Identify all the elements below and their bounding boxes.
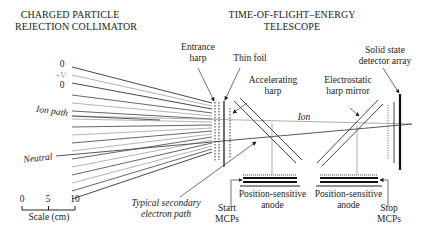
scale-tick-5: 5 <box>43 194 53 205</box>
secondary-electron-label: Typical secondary electron path <box>125 198 207 220</box>
telescope-header-line1: TIME-OF-FLIGHT–ENERGY <box>222 9 362 21</box>
telescope-header: TIME-OF-FLIGHT–ENERGY TELESCOPE <box>222 9 362 33</box>
anode-left-label-line2: anode <box>235 200 310 211</box>
solid-state-detector-label: Solid state detector array <box>350 45 420 67</box>
anode-left-label-line1: Position-sensitive <box>235 189 310 200</box>
ion-label: Ion <box>294 112 314 123</box>
stop-mcps-label-line2: MCPs <box>374 214 404 225</box>
harp-mirror-leader <box>350 108 359 116</box>
diagonal-harp-left-b <box>240 98 302 160</box>
solid-state-detector-label-line1: Solid state <box>350 45 420 56</box>
diagonal-harp-left-a <box>234 101 296 163</box>
solid-state-detector-label-line2: detector array <box>350 56 420 67</box>
scale-tick-10: 10 <box>68 194 82 205</box>
stop-mcp-assembly <box>316 175 382 186</box>
entrance-harp-label-line2: harp <box>175 53 221 64</box>
accelerating-harp-label: Accelerating harp <box>244 75 302 97</box>
detector-leader <box>383 68 399 93</box>
harp-mirror-label-line1: Electrostatic <box>317 75 379 86</box>
voltage-label-0-top: 0 <box>57 59 67 70</box>
stop-mcps-label: Stop MCPs <box>374 203 404 225</box>
scale-label: Scale (cm) <box>20 212 78 223</box>
scale-tick-0: 0 <box>17 194 27 205</box>
scale-bar <box>22 206 75 210</box>
harp-mirror-b <box>322 104 383 166</box>
collimator-header-line1: CHARGED PARTICLE <box>15 9 125 21</box>
stop-mcps-label-line1: Stop <box>374 203 404 214</box>
anode-right-label-line1: Position-sensitive <box>311 189 386 200</box>
entrance-harp-leader <box>198 68 214 101</box>
voltage-label-0-bottom: 0 <box>57 80 67 91</box>
secondary-electron-label-line2: electron path <box>125 209 207 220</box>
collimator-plates <box>72 67 212 199</box>
harp-mirror-label-line2: harp mirror <box>317 86 379 97</box>
harp-mirror-label: Electrostatic harp mirror <box>317 75 379 97</box>
start-mcp-assembly <box>240 175 300 186</box>
entrance-harp-label-line1: Entrance <box>175 42 221 53</box>
collimator-header: CHARGED PARTICLE REJECTION COLLIMATOR <box>15 9 125 33</box>
start-mcps-label-line2: MCPs <box>212 214 242 225</box>
telescope-header-line2: TELESCOPE <box>222 21 362 33</box>
accelerating-harp-label-line1: Accelerating <box>244 75 302 86</box>
thin-foil-leader <box>225 68 240 100</box>
entrance-harp-label: Entrance harp <box>175 42 221 64</box>
thin-foil-label: Thin foil <box>228 53 272 64</box>
collimator-header-line2: REJECTION COLLIMATOR <box>15 21 125 33</box>
accelerating-harp-label-line2: harp <box>244 86 302 97</box>
secondary-electron-label-line1: Typical secondary <box>125 198 207 209</box>
anode-left-label: Position-sensitive anode <box>235 189 310 211</box>
